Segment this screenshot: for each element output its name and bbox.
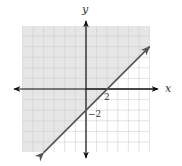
y-axis-label: y: [81, 3, 89, 16]
x-axis-label: x: [165, 82, 172, 95]
y-tick-label: −2: [88, 109, 101, 119]
inequality-graph: y x 2 −2: [0, 0, 182, 166]
x-tick-label: 2: [104, 92, 110, 102]
